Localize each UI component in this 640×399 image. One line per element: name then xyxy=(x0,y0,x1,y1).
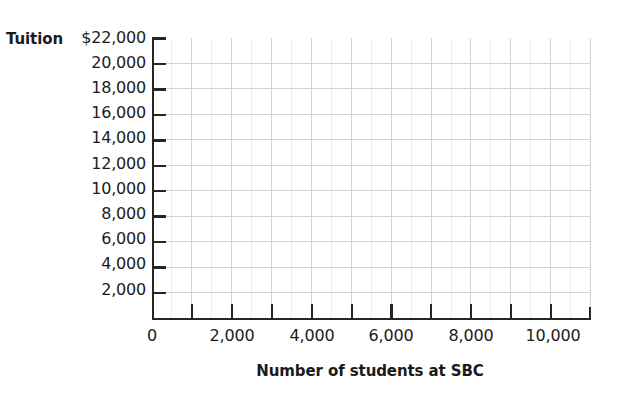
x-tick-label: 10,000 xyxy=(526,328,581,344)
x-tick-label: 4,000 xyxy=(290,328,335,344)
y-tick-label: 18,000 xyxy=(64,80,146,96)
plot-area xyxy=(152,38,590,318)
x-tick-label: 6,000 xyxy=(369,328,414,344)
y-tick-label: 16,000 xyxy=(64,105,146,121)
x-axis-title: Number of students at SBC xyxy=(256,362,483,380)
chart-figure: Tuition $22,000 20,000 18,000 16,000 14,… xyxy=(0,0,640,399)
y-tick-label: 6,000 xyxy=(64,231,146,247)
y-tick-label: 20,000 xyxy=(64,55,146,71)
y-tick-label: 8,000 xyxy=(64,206,146,222)
y-axis-tick-labels: $22,000 20,000 18,000 16,000 14,000 12,0… xyxy=(62,0,146,399)
y-tick-label: 12,000 xyxy=(64,156,146,172)
grid-lines xyxy=(152,38,590,318)
y-tick-label: 4,000 xyxy=(64,256,146,272)
y-tick-label: $22,000 xyxy=(64,30,146,46)
y-tick-label: 2,000 xyxy=(64,282,146,298)
x-tick-label: 0 xyxy=(147,328,157,344)
x-tick-label: 8,000 xyxy=(449,328,494,344)
y-tick-label: 10,000 xyxy=(64,181,146,197)
y-tick-label: 14,000 xyxy=(64,130,146,146)
x-tick-label: 2,000 xyxy=(210,328,255,344)
y-axis-title: Tuition xyxy=(6,30,63,48)
